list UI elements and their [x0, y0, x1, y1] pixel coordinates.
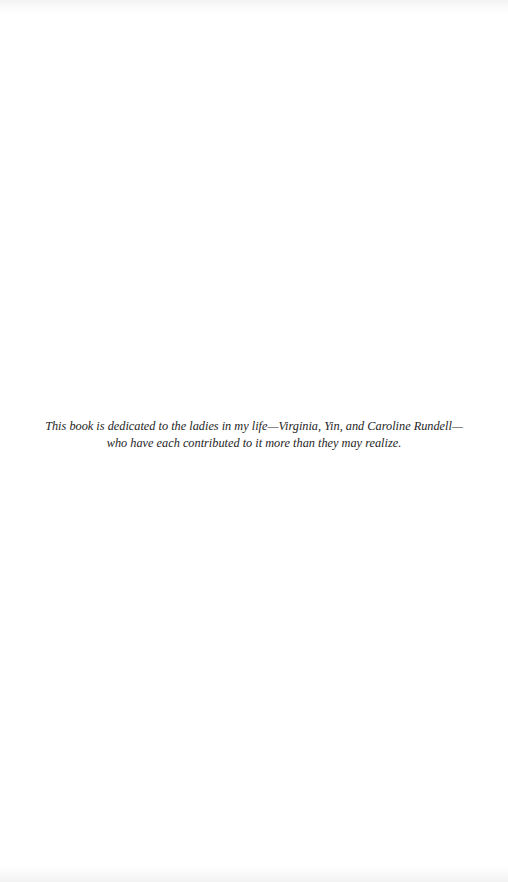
- page-bottom-edge: [0, 866, 508, 882]
- dedication-line-1: This book is dedicated to the ladies in …: [0, 418, 508, 435]
- dedication-line-2: who have each contributed to it more tha…: [0, 435, 508, 452]
- page-top-edge: [0, 0, 508, 14]
- dedication-text: This book is dedicated to the ladies in …: [0, 418, 508, 452]
